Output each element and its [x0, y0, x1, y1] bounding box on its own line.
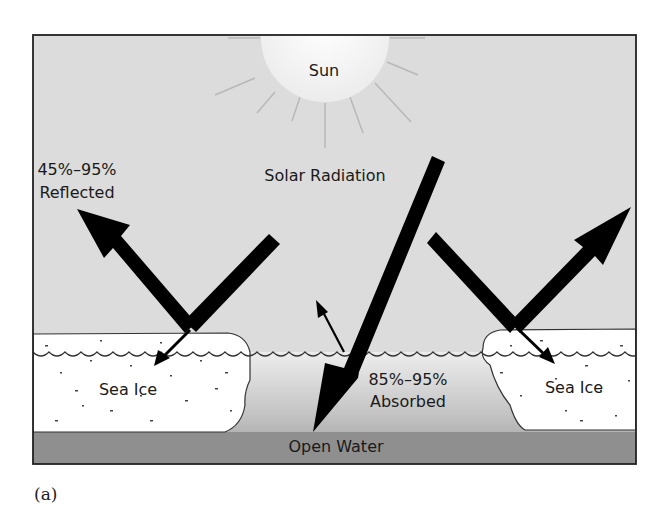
- label-reflected-percent: 45%–95%: [37, 160, 116, 179]
- label-sea-ice-left: Sea Ice: [99, 380, 157, 399]
- label-open-water: Open Water: [288, 437, 384, 456]
- label-sea-ice-right: Sea Ice: [545, 378, 603, 397]
- diagram-canvas: Sun Solar Radiation 45%–95% Reflected Se…: [0, 0, 661, 521]
- figure-caption: (a): [34, 484, 57, 504]
- label-absorbed-percent: 85%–95%: [368, 370, 447, 389]
- label-absorbed: Absorbed: [370, 392, 446, 411]
- label-solar-radiation: Solar Radiation: [264, 166, 385, 185]
- label-reflected: Reflected: [39, 183, 114, 202]
- label-sun: Sun: [309, 61, 339, 80]
- albedo-diagram: Sun Solar Radiation 45%–95% Reflected Se…: [0, 0, 661, 521]
